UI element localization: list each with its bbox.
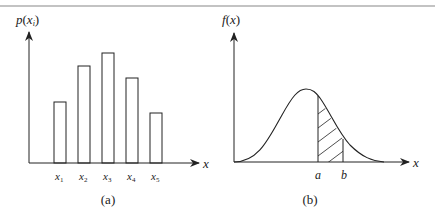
bar-x2 [78, 66, 90, 163]
density-chart-b: f(x) x a b (b) [222, 12, 419, 207]
bar-chart-a: p(xi) x x1 x2 x3 x4 x5 (a) [15, 12, 209, 207]
a-label: a [315, 168, 321, 182]
bar-x4 [126, 78, 138, 163]
y-axis-label: f(x) [222, 12, 240, 27]
tick-x1: x1 [54, 170, 64, 184]
caption-a: (a) [101, 192, 115, 207]
figure: p(xi) x x1 x2 x3 x4 x5 (a) f(x) x a b [0, 0, 435, 218]
tick-x3: x3 [102, 170, 112, 184]
b-label: b [341, 168, 347, 182]
density-curve [234, 89, 384, 162]
tick-x4: x4 [126, 170, 136, 184]
caption-b: (b) [302, 192, 317, 207]
x-axis-label: x [412, 155, 419, 170]
tick-x5: x5 [150, 170, 160, 184]
bar-x1 [54, 102, 66, 163]
x-axis-label: x [202, 156, 209, 171]
bar-x3 [102, 53, 114, 163]
bar-x5 [150, 113, 162, 163]
y-axis-label: p(xi) [15, 12, 39, 28]
tick-x2: x2 [78, 170, 88, 184]
